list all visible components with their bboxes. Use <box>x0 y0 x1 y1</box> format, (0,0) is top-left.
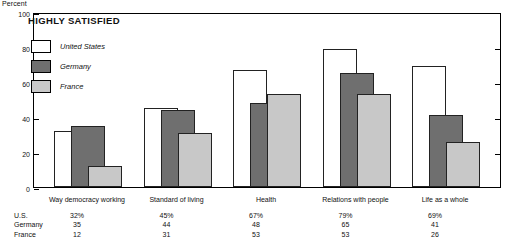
legend-label: France <box>60 82 83 91</box>
chart-title: HIGHLY SATISFIED <box>28 15 120 26</box>
table-cell: 53 <box>342 230 350 239</box>
y-tick-label-0: 0 <box>10 186 30 193</box>
table-row-label: France <box>14 230 36 239</box>
legend-swatch-fr <box>31 80 51 93</box>
data-table: U.S.32%45%67%79%69%Germany3544486541Fran… <box>0 211 519 239</box>
bar-fr-3 <box>357 94 391 187</box>
table-cell: 12 <box>73 230 81 239</box>
y-tick-label-40: 40 <box>10 116 30 123</box>
bar-fr-1 <box>178 133 212 187</box>
category-label-0: Way democracy working <box>49 196 125 203</box>
y-tick-right-40 <box>495 119 500 120</box>
table-cell: 41 <box>431 220 439 229</box>
y-tick-label-60: 60 <box>10 81 30 88</box>
category-label-3: Relations with people <box>322 196 389 203</box>
legend-label: Germany <box>60 62 91 71</box>
bar-fr-2 <box>267 94 301 187</box>
legend-item-de: Germany <box>31 58 105 74</box>
y-axis-unit-label: Percent <box>2 0 27 7</box>
table-cell: 44 <box>163 220 171 229</box>
table-cell: 26 <box>431 230 439 239</box>
table-cell: 79% <box>338 211 352 220</box>
table-cell: 45% <box>159 211 173 220</box>
table-cell: 53 <box>252 230 260 239</box>
table-row-label: Germany <box>14 220 43 229</box>
category-label-2: Health <box>256 196 276 203</box>
table-row: U.S.32%45%67%79%69% <box>0 211 519 220</box>
table-cell: 69% <box>428 211 442 220</box>
y-tick-right-80 <box>495 49 500 50</box>
y-tick-20 <box>34 154 39 155</box>
legend-item-fr: France <box>31 78 105 94</box>
table-cell: 31 <box>163 230 171 239</box>
y-tick-label-20: 20 <box>10 151 30 158</box>
bar-fr-4 <box>446 142 480 188</box>
table-cell: 65 <box>342 220 350 229</box>
category-label-1: Standard of living <box>149 196 203 203</box>
legend-swatch-us <box>31 40 51 53</box>
bar-fr-0 <box>88 166 122 187</box>
y-tick-right-60 <box>495 84 500 85</box>
y-tick-label-100: 100 <box>10 11 30 18</box>
table-row: France1231535326 <box>0 230 519 239</box>
category-label-4: Life as a whole <box>422 196 469 203</box>
table-cell: 35 <box>73 220 81 229</box>
legend-label: United States <box>60 42 105 51</box>
table-cell: 67% <box>249 211 263 220</box>
table-row-label: U.S. <box>14 211 28 220</box>
legend: United StatesGermanyFrance <box>31 38 105 98</box>
table-cell: 32% <box>70 211 84 220</box>
legend-swatch-de <box>31 60 51 73</box>
legend-item-us: United States <box>31 38 105 54</box>
y-tick-right-20 <box>495 154 500 155</box>
y-tick-0 <box>34 189 39 190</box>
y-tick-label-80: 80 <box>10 46 30 53</box>
y-tick-40 <box>34 119 39 120</box>
table-cell: 48 <box>252 220 260 229</box>
table-row: Germany3544486541 <box>0 220 519 229</box>
